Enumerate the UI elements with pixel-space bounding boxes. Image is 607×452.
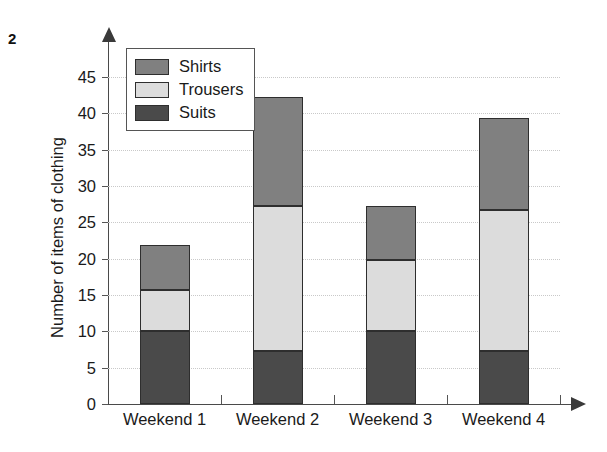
x-axis-tick-mark (221, 395, 222, 404)
bar-segment-suits[interactable] (366, 331, 416, 404)
bar-segment-shirts[interactable] (253, 97, 303, 206)
legend-swatch-suits (135, 105, 169, 121)
question-number: 2 (8, 30, 16, 47)
y-axis-tick-mark (102, 259, 108, 260)
bar-segment-suits[interactable] (479, 351, 529, 404)
bar-group[interactable] (253, 0, 303, 404)
x-axis-category-label: Weekend 2 (221, 410, 334, 429)
y-axis-tick-label: 30 (52, 178, 96, 195)
chart-legend: ShirtsTrousersSuits (126, 48, 255, 131)
bar-segment-trousers[interactable] (479, 210, 529, 351)
legend-swatch-trousers (135, 82, 169, 98)
x-axis-tick-mark (560, 395, 561, 404)
y-axis-tick-label: 40 (52, 105, 96, 122)
x-axis-category-label: Weekend 1 (108, 410, 221, 429)
y-axis-tick-label: 35 (52, 142, 96, 159)
y-axis-tick-label: 25 (52, 214, 96, 231)
bar-segment-shirts[interactable] (366, 206, 416, 261)
x-axis-tick-mark (334, 395, 335, 404)
y-axis-tick-label: 20 (52, 251, 96, 268)
y-axis-tick-mark (102, 404, 108, 405)
y-axis-tick-label: 5 (52, 360, 96, 377)
y-axis-tick-mark (102, 222, 108, 223)
y-axis-tick-mark (102, 295, 108, 296)
bar-segment-trousers[interactable] (366, 260, 416, 331)
bar-segment-shirts[interactable] (479, 118, 529, 210)
y-axis-tick-label: 15 (52, 287, 96, 304)
legend-label: Suits (179, 104, 216, 121)
y-axis-arrow-icon (102, 27, 116, 42)
x-axis-category-label: Weekend 3 (334, 410, 447, 429)
bar-segment-shirts[interactable] (140, 245, 190, 290)
y-axis-tick-mark (102, 77, 108, 78)
y-axis-tick-mark (102, 331, 108, 332)
x-axis-category-label: Weekend 4 (447, 410, 560, 429)
x-axis-line (108, 404, 573, 405)
x-axis-tick-mark (447, 395, 448, 404)
y-axis-tick-mark (102, 150, 108, 151)
y-axis-tick-label: 10 (52, 323, 96, 340)
bar-group[interactable] (366, 0, 416, 404)
bar-group[interactable] (479, 0, 529, 404)
y-axis-tick-mark (102, 186, 108, 187)
legend-item: Shirts (135, 55, 244, 78)
bar-segment-trousers[interactable] (253, 206, 303, 351)
legend-label: Shirts (179, 58, 221, 75)
legend-swatch-shirts (135, 59, 169, 75)
y-axis-tick-label: 45 (52, 69, 96, 86)
legend-item: Trousers (135, 78, 244, 101)
y-axis-tick-mark (102, 368, 108, 369)
legend-item: Suits (135, 101, 244, 124)
legend-label: Trousers (179, 81, 244, 98)
bar-segment-suits[interactable] (140, 331, 190, 404)
x-axis-arrow-icon (571, 397, 586, 411)
bar-segment-trousers[interactable] (140, 290, 190, 331)
stacked-bar-chart-figure: 2 Number of items of clothing 0510152025… (0, 0, 607, 452)
y-axis-tick-label: 0 (52, 396, 96, 413)
bar-segment-suits[interactable] (253, 351, 303, 404)
y-axis-tick-mark (102, 113, 108, 114)
